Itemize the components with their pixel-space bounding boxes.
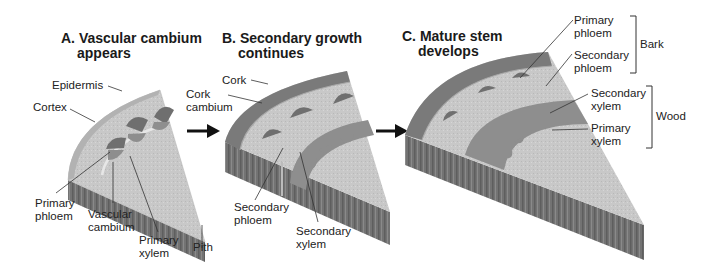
panel-a-wedge xyxy=(65,90,205,262)
panel-c-letter: C. xyxy=(402,28,416,44)
label-b-secondary-phloem: Secondary phloem xyxy=(234,201,289,227)
panel-c-title-line1: Mature stem xyxy=(420,28,502,44)
bark-bracket xyxy=(630,16,636,73)
panel-a-letter: A. xyxy=(61,30,75,46)
label-cork-cambium: Cork cambium xyxy=(186,88,233,114)
label-b-secondary-xylem: Secondary xylem xyxy=(296,225,351,251)
panel-b-letter: B. xyxy=(222,30,236,46)
panel-b-title-line1: Secondary growth xyxy=(240,30,362,46)
panel-b-title: B. Secondary growth continues xyxy=(222,31,362,61)
label-c-primary-xylem: Primary xylem xyxy=(591,122,631,148)
label-c-secondary-xylem: Secondary xylem xyxy=(591,87,646,113)
label-a-primary-xylem: Primary xylem xyxy=(139,234,179,260)
panel-c-wedge xyxy=(405,52,644,260)
panel-a-title-line2: appears xyxy=(77,45,131,61)
label-epidermis: Epidermis xyxy=(52,79,103,92)
wood-bracket xyxy=(646,86,652,148)
label-pith: Pith xyxy=(193,241,213,254)
arrow-a-to-b xyxy=(187,124,220,138)
label-cork: Cork xyxy=(222,74,246,87)
label-c-secondary-phloem: Secondary phloem xyxy=(574,49,629,75)
label-c-primary-phloem: Primary phloem xyxy=(574,14,614,40)
label-bark: Bark xyxy=(640,38,664,51)
panel-c-title: C. Mature stem develops xyxy=(402,29,502,59)
arrow-b-to-c xyxy=(376,124,408,138)
panel-b-title-line2: continues xyxy=(238,45,304,61)
label-cortex: Cortex xyxy=(33,101,67,114)
label-a-primary-phloem: Primary phloem xyxy=(35,197,75,223)
label-wood: Wood xyxy=(656,110,686,123)
panel-c-title-line2: develops xyxy=(418,43,479,59)
panel-a-title-line1: Vascular cambium xyxy=(79,30,202,46)
label-vascular-cambium: Vascular cambium xyxy=(88,208,135,234)
panel-a-title: A. Vascular cambium appears xyxy=(61,31,202,61)
